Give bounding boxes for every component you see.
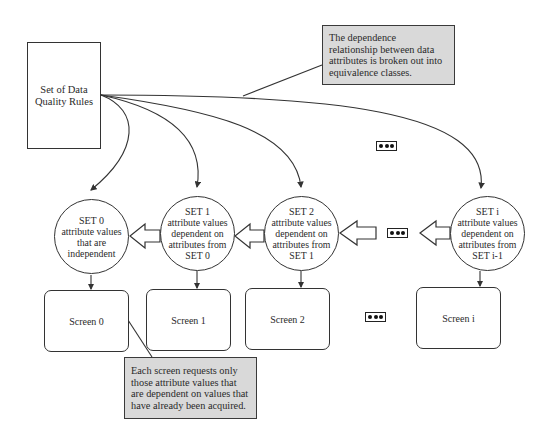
set-i-circle: SET i attribute values dependent on attr… bbox=[450, 196, 525, 271]
callout-line: equivalence classes. bbox=[329, 67, 448, 79]
screen-label: Screen i bbox=[442, 313, 475, 324]
set-title: SET i bbox=[476, 206, 499, 217]
set-line: independent bbox=[68, 248, 116, 259]
curve-to-seti bbox=[101, 95, 481, 188]
set-line: attributes from bbox=[459, 239, 517, 250]
set-line: attributes from bbox=[169, 239, 227, 250]
screen-0-box: Screen 0 bbox=[44, 290, 129, 352]
screen-label: Screen 1 bbox=[171, 315, 206, 326]
rules-label-line2: Quality Rules bbox=[35, 96, 93, 108]
set-line: that are bbox=[77, 237, 106, 248]
set-line: SET 1 bbox=[289, 250, 314, 261]
set-line: dependent on bbox=[275, 228, 328, 239]
screen-requests-callout: Each screen requests only those attribut… bbox=[124, 357, 257, 419]
hollow-arrow-set1-to-set0 bbox=[130, 224, 160, 248]
set-line: dependent on bbox=[461, 228, 514, 239]
set-0-circle: SET 0 attribute values that are independ… bbox=[54, 199, 129, 274]
set-line: SET 0 bbox=[185, 250, 210, 261]
callout-line: Each screen requests only bbox=[131, 365, 250, 377]
screen-label: Screen 2 bbox=[270, 314, 305, 325]
hollow-arrow-seti-to-ellipsis bbox=[420, 221, 450, 245]
ellipsis-icon bbox=[376, 141, 397, 151]
curve-to-set2 bbox=[101, 95, 301, 187]
screen-1-box: Screen 1 bbox=[146, 289, 231, 351]
ellipsis-icon bbox=[365, 312, 386, 322]
set-title: SET 1 bbox=[185, 206, 210, 217]
set-line: SET i-1 bbox=[472, 250, 503, 261]
callout-line: The dependence bbox=[329, 32, 448, 44]
set-line: attribute values bbox=[61, 226, 121, 237]
screen-label: Screen 0 bbox=[69, 316, 104, 327]
callout-line: have already been acquired. bbox=[131, 400, 250, 412]
callout-line: attributes is broken out into bbox=[329, 55, 448, 67]
equivalence-classes-callout: The dependence relationship between data… bbox=[322, 25, 455, 85]
set-line: attribute values bbox=[271, 217, 331, 228]
data-quality-rules-box: Set of Data Quality Rules bbox=[27, 42, 101, 149]
callout-line: are dependent on values that bbox=[131, 388, 250, 400]
screen-i-box: Screen i bbox=[416, 287, 501, 349]
set-2-circle: SET 2 attribute values dependent on attr… bbox=[264, 196, 339, 271]
set-1-circle: SET 1 attribute values dependent on attr… bbox=[160, 196, 235, 271]
rules-label-line1: Set of Data bbox=[35, 84, 93, 96]
callout-line: those attribute values that bbox=[131, 377, 250, 389]
set-title: SET 2 bbox=[289, 206, 314, 217]
set-line: attribute values bbox=[457, 217, 517, 228]
callout-line: relationship between data bbox=[329, 44, 448, 56]
set-line: attributes from bbox=[273, 239, 331, 250]
hollow-arrow-set2-to-set1 bbox=[235, 224, 264, 248]
set-line: dependent on bbox=[171, 228, 224, 239]
ellipsis-icon bbox=[387, 228, 408, 238]
screen-2-box: Screen 2 bbox=[245, 288, 330, 350]
top-callout-leader bbox=[243, 65, 322, 96]
hollow-arrow-ellipsis-to-set2 bbox=[340, 221, 376, 245]
set-line: attribute values bbox=[167, 217, 227, 228]
set-title: SET 0 bbox=[79, 215, 104, 226]
